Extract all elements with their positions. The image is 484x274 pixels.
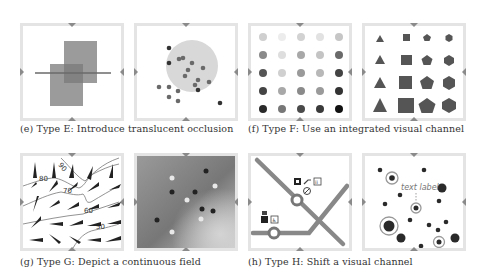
- translucent-rectangles-graphic: [23, 26, 121, 118]
- svg-text:ii: ii: [315, 179, 318, 185]
- caption-e: (e) Type E: Introduce translucent occlus…: [20, 123, 233, 134]
- caption-g: (g) Type G: Depict a continuous field: [20, 256, 201, 267]
- shape-size-grid-graphic: [365, 26, 463, 118]
- transit-map-graphic: ii ♿: [251, 156, 349, 248]
- caption-f: (f) Type F: Use an integrated visual cha…: [248, 123, 464, 134]
- scatter-on-gradient-graphic: [137, 156, 235, 248]
- panel-g-left: 90 80 70 60 50: [20, 153, 124, 251]
- caption-h: (h) Type H: Shift a visual channel: [248, 256, 413, 267]
- luminance-dot-grid-graphic: [251, 26, 349, 118]
- panel-g-right: [134, 153, 238, 251]
- contour-label-70: 70: [63, 187, 72, 195]
- panel-f-left: [248, 23, 352, 121]
- station-icon: [269, 228, 279, 238]
- text-label: text label: [401, 183, 440, 192]
- svg-text:♿: ♿: [272, 217, 276, 223]
- station-icon: [292, 195, 302, 205]
- panel-e-left: [20, 23, 124, 121]
- scatter-translucent-circle-graphic: [137, 26, 235, 118]
- contour-label-90: 90: [56, 161, 68, 173]
- wind-field-contours-graphic: 90 80 70 60 50: [23, 156, 121, 248]
- panel-h-left: ii ♿: [248, 153, 352, 251]
- bubble-scatter-graphic: text label: [365, 156, 463, 248]
- panel-e-right: [134, 23, 238, 121]
- contour-label-80: 80: [39, 175, 48, 183]
- panel-f-right: [362, 23, 466, 121]
- panel-h-right: text label: [362, 153, 466, 251]
